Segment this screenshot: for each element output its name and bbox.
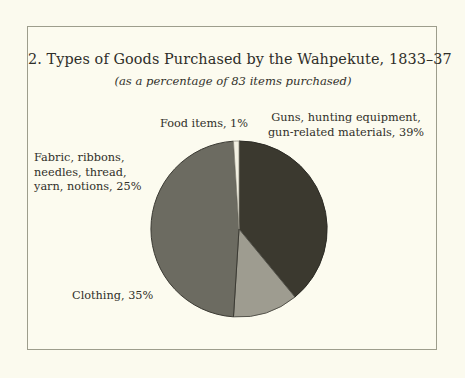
figure-canvas: 2. Types of Goods Purchased by the Wahpe… bbox=[0, 0, 465, 378]
pie-chart: Guns, hunting equipment, gun-related mat… bbox=[28, 27, 438, 351]
pie-label-guns: Guns, hunting equipment, gun-related mat… bbox=[258, 111, 434, 140]
pie-label-clothing: Clothing, 35% bbox=[72, 289, 202, 304]
pie-label-food: Food items, 1% bbox=[144, 117, 264, 132]
figure-frame: 2. Types of Goods Purchased by the Wahpe… bbox=[27, 26, 437, 350]
pie-label-fabric: Fabric, ribbons, needles, thread, yarn, … bbox=[34, 151, 160, 195]
